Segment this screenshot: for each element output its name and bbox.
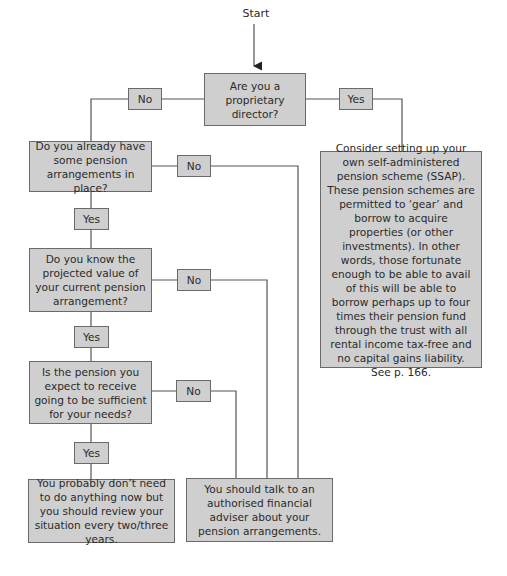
question-proprietary-director: Are you a proprietary director? [204, 73, 306, 126]
edge-label-q3-no: No [177, 269, 211, 291]
start-label: Start [241, 7, 271, 20]
edge-label-q4-no: No [176, 380, 211, 402]
question-projected-value: Do you know the projected value of your … [29, 248, 152, 312]
outcome-talk-to-adviser: You should talk to an authorised financi… [186, 478, 333, 542]
outcome-ssap: Consider setting up your own self-admini… [320, 151, 482, 368]
question-existing-arrangements: Do you already have some pension arrange… [29, 141, 152, 192]
edge-label-q2-no: No [177, 155, 211, 177]
edge-label-q1-yes: Yes [339, 88, 373, 110]
edge-label-q4-yes: Yes [74, 442, 109, 464]
outcome-no-action: You probably don’t need to do anything n… [28, 479, 175, 543]
edge-label-q1-no: No [128, 88, 162, 110]
edge-label-q2-yes: Yes [74, 208, 109, 230]
question-pension-sufficient: Is the pension you expect to receive goi… [29, 361, 152, 424]
edge-label-q3-yes: Yes [74, 326, 109, 348]
